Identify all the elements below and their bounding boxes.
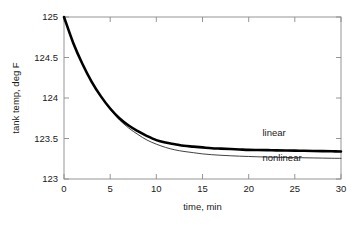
series-label-linear: linear xyxy=(263,127,286,138)
y-tick-label: 125 xyxy=(42,11,58,22)
x-tick-label: 25 xyxy=(290,183,301,194)
x-tick-label: 30 xyxy=(336,183,347,194)
tank-temperature-plot: 123 123.5 124 124.5 125 0 5 10 15 20 25 … xyxy=(0,0,362,227)
chart-figure: 123 123.5 124 124.5 125 0 5 10 15 20 25 … xyxy=(0,0,362,227)
y-tick-label: 123 xyxy=(42,173,58,184)
x-tick-label: 15 xyxy=(197,183,208,194)
y-tick-label: 124 xyxy=(42,92,58,103)
y-axis-tick-labels: 123 123.5 124 124.5 125 xyxy=(34,11,58,184)
y-tick-label: 123.5 xyxy=(34,133,58,144)
x-tick-label: 0 xyxy=(61,183,66,194)
x-tick-label: 20 xyxy=(243,183,254,194)
y-tick-label: 124.5 xyxy=(34,52,58,63)
series-label-nonlinear: nonlinear xyxy=(263,152,302,163)
x-axis-tick-labels: 0 5 10 15 20 25 30 xyxy=(61,183,346,194)
x-tick-label: 10 xyxy=(151,183,162,194)
y-axis-title: tank temp, deg F xyxy=(10,62,21,133)
x-tick-label: 5 xyxy=(108,183,113,194)
series-line-nonlinear xyxy=(64,17,341,158)
x-axis-title: time, min xyxy=(183,201,222,212)
series-line-linear xyxy=(64,17,341,151)
